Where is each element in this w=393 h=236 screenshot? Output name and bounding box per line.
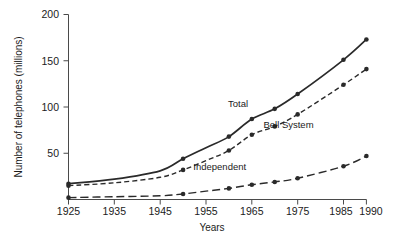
- x-tick-label-1925: 1925: [57, 205, 81, 217]
- data-point: [364, 154, 369, 159]
- data-point: [181, 192, 186, 197]
- x-tick-label-1945: 1945: [149, 205, 173, 217]
- x-tick-label-1935: 1935: [103, 205, 127, 217]
- data-point: [250, 132, 255, 137]
- data-point: [364, 37, 369, 42]
- data-point: [227, 148, 232, 153]
- x-tick-label-1975: 1975: [286, 205, 310, 217]
- data-point: [227, 186, 232, 191]
- data-point: [341, 58, 346, 63]
- y-tick-label-200: 200: [41, 8, 59, 20]
- data-point: [341, 164, 346, 169]
- data-point: [364, 67, 369, 72]
- data-point: [341, 83, 346, 88]
- y-tick-label-100: 100: [41, 101, 59, 113]
- x-tick-label-1955: 1955: [194, 205, 218, 217]
- figure-container: 200 150 100 50 1925 1935 1945 1955 1965 …: [0, 0, 393, 236]
- x-tick-label-1985: 1985: [329, 205, 353, 217]
- series-label-bell-system: Bell System: [263, 119, 313, 130]
- data-point: [272, 107, 277, 112]
- series-label-total: Total: [228, 98, 248, 109]
- series-layer: [66, 37, 369, 200]
- data-point: [295, 92, 300, 97]
- data-point: [250, 182, 255, 187]
- y-tick-label-50: 50: [47, 147, 59, 159]
- x-axis-title: Years: [199, 222, 224, 233]
- data-point: [181, 157, 186, 162]
- y-tick-label-150: 150: [41, 55, 59, 67]
- x-tick-label-1965: 1965: [240, 205, 264, 217]
- data-point: [227, 134, 232, 139]
- x-tick-label-1990: 1990: [359, 205, 383, 217]
- telephone-line-chart: 200 150 100 50 1925 1935 1945 1955 1965 …: [0, 0, 393, 236]
- data-point: [66, 183, 71, 188]
- data-point: [181, 168, 186, 173]
- data-point: [66, 195, 71, 200]
- y-axis-ticks: [64, 15, 69, 154]
- x-axis-ticks: [69, 200, 367, 205]
- data-point: [295, 112, 300, 117]
- data-point: [272, 180, 277, 185]
- data-point: [295, 176, 300, 181]
- data-point: [250, 117, 255, 122]
- series-label-independent: Independent: [193, 161, 246, 172]
- y-axis-title: Number of telephones (millions): [13, 36, 24, 177]
